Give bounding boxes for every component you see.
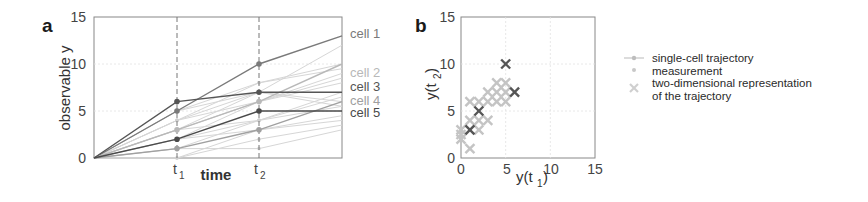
legend-item-representation: two-dimensional representation of the tr… [652, 77, 812, 102]
svg-text:15: 15 [439, 9, 455, 25]
svg-text:0: 0 [447, 150, 455, 166]
svg-text:15: 15 [587, 161, 603, 177]
svg-text:): ) [543, 168, 548, 185]
cell-1-label: cell 1 [350, 26, 380, 41]
svg-text:t: t [173, 161, 177, 177]
dot-icon [632, 68, 636, 72]
panel-a-label: a [42, 15, 53, 36]
panel-a-y-label: observable y [56, 45, 73, 131]
panel-a: a 15 10 5 0 observable y t 1 t 2 time ce… [42, 9, 380, 183]
panel-b-y-ticks: 15 10 5 0 [439, 9, 455, 166]
legend: single-cell trajectory measurement two-d… [652, 52, 812, 102]
svg-text:2: 2 [260, 170, 266, 181]
cross-icon [630, 84, 638, 92]
panel-b-axes [461, 17, 595, 158]
svg-text:15: 15 [70, 9, 86, 25]
legend-item-trajectory: single-cell trajectory [652, 52, 812, 65]
svg-text:0: 0 [78, 150, 86, 166]
cell-2-label: cell 2 [350, 65, 380, 80]
svg-text:t: t [254, 161, 258, 177]
cell-3-label: cell 3 [350, 79, 380, 94]
svg-text:y(t: y(t [516, 168, 533, 185]
legend-item-measurement: measurement [652, 65, 812, 78]
panel-b: b 15 10 5 0 0 5 10 15 y(t 2 ) y(t 1 ) [415, 9, 603, 189]
panel-a-x-label: time [201, 166, 232, 183]
svg-text:10: 10 [439, 56, 455, 72]
svg-text:5: 5 [447, 103, 455, 119]
line-with-dot-icon [624, 56, 644, 60]
svg-text:5: 5 [78, 103, 86, 119]
panel-b-y-label: y(t 2 ) [422, 68, 443, 100]
svg-text:0: 0 [457, 161, 465, 177]
panel-b-label: b [415, 15, 427, 36]
svg-text:1: 1 [179, 170, 185, 181]
svg-text:y(t: y(t [422, 83, 439, 100]
panel-b-x-label: y(t 1 ) [516, 168, 548, 189]
cell-5-label: cell 5 [350, 105, 380, 120]
svg-text:5: 5 [503, 161, 511, 177]
svg-text:): ) [422, 68, 439, 73]
legend-icons [624, 56, 644, 92]
cell-labels: cell 1 cell 2 cell 3 cell 4 cell 5 [350, 26, 380, 120]
